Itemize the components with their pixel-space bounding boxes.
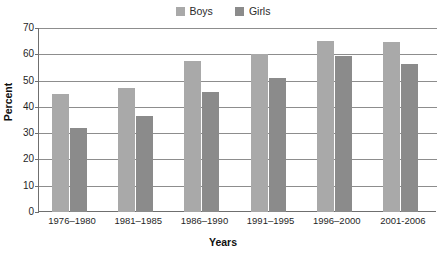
y-axis-tick bbox=[35, 212, 39, 213]
y-axis-tick-label: 40 bbox=[23, 102, 34, 112]
bar-boys-1[interactable] bbox=[52, 94, 69, 212]
legend-entry-boys[interactable]: Boys bbox=[176, 6, 213, 17]
bar-girls-2[interactable] bbox=[136, 116, 153, 212]
x-axis-tick-labels: 1976–19801981–19851986–19901991–19951996… bbox=[39, 216, 436, 230]
y-axis-title: Percent bbox=[2, 72, 14, 132]
x-axis-title: Years bbox=[0, 236, 446, 248]
bar-boys-5[interactable] bbox=[317, 41, 334, 212]
y-axis-tick-label: 60 bbox=[23, 49, 34, 59]
bar-group bbox=[171, 28, 237, 212]
x-axis-tick-label: 1986–1990 bbox=[171, 216, 237, 226]
bar-group bbox=[39, 28, 105, 212]
legend-label-girls: Girls bbox=[249, 6, 271, 17]
bar-boys-6[interactable] bbox=[383, 42, 400, 212]
bar-girls-6[interactable] bbox=[401, 64, 418, 213]
y-axis-tick-label: 20 bbox=[23, 154, 34, 164]
bar-boys-2[interactable] bbox=[118, 88, 135, 212]
y-axis-tick-label: 70 bbox=[23, 23, 34, 33]
y-axis-tick-label: 0 bbox=[28, 207, 34, 217]
legend-swatch-girls bbox=[235, 7, 244, 16]
bar-girls-5[interactable] bbox=[335, 56, 352, 212]
legend-entry-girls[interactable]: Girls bbox=[235, 6, 271, 17]
bar-boys-4[interactable] bbox=[251, 54, 268, 212]
bar-group bbox=[238, 28, 304, 212]
y-axis-tick-label: 10 bbox=[23, 181, 34, 191]
bar-girls-4[interactable] bbox=[269, 78, 286, 212]
bar-chart: Boys Girls 010203040506070 1976–19801981… bbox=[0, 0, 446, 257]
y-axis-tick-label: 50 bbox=[23, 76, 34, 86]
legend-label-boys: Boys bbox=[190, 6, 213, 17]
chart-legend: Boys Girls bbox=[0, 3, 446, 19]
x-axis-tick-label: 2001-2006 bbox=[370, 216, 436, 226]
x-axis-tick-label: 1996–2000 bbox=[304, 216, 370, 226]
bars-layer bbox=[39, 28, 436, 212]
bar-group bbox=[105, 28, 171, 212]
x-axis-tick-label: 1991–1995 bbox=[238, 216, 304, 226]
x-axis-tick-label: 1981–1985 bbox=[105, 216, 171, 226]
bar-girls-1[interactable] bbox=[70, 128, 87, 212]
x-axis-tick-label: 1976–1980 bbox=[39, 216, 105, 226]
y-axis-tick-label: 30 bbox=[23, 128, 34, 138]
bar-group bbox=[304, 28, 370, 212]
bar-boys-3[interactable] bbox=[184, 61, 201, 212]
bar-girls-3[interactable] bbox=[202, 92, 219, 212]
legend-swatch-boys bbox=[176, 7, 185, 16]
bar-group bbox=[370, 28, 436, 212]
